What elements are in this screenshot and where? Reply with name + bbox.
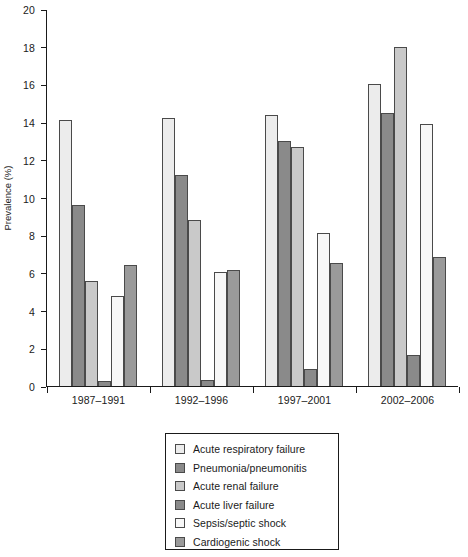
y-tick-mark	[41, 236, 46, 237]
bar	[111, 296, 124, 386]
bar	[85, 281, 98, 386]
bar	[227, 270, 240, 386]
legend-item: Sepsis/septic shock	[175, 514, 338, 532]
legend-label: Sepsis/septic shock	[193, 517, 286, 529]
legend-label: Acute liver failure	[193, 499, 274, 511]
bar	[214, 272, 227, 386]
y-tick-label: 4	[29, 306, 35, 318]
bar	[201, 380, 214, 386]
chart-root: Prevalence (%) 20181614121086420 1987–19…	[0, 0, 468, 557]
x-tick-mark	[253, 387, 254, 393]
y-tick-label: 12	[23, 155, 35, 167]
legend-item: Acute respiratory failure	[175, 440, 338, 458]
bar	[124, 265, 137, 386]
y-tick-mark	[41, 273, 46, 274]
y-tick-mark	[41, 387, 46, 388]
legend-swatch-icon	[175, 518, 185, 528]
x-tick-mark	[459, 387, 460, 393]
x-category-label: 2002–2006	[356, 394, 459, 410]
y-tick-label: 16	[23, 79, 35, 91]
legend-item: Pneumonia/pneumonitis	[175, 459, 338, 477]
y-tick-mark	[41, 160, 46, 161]
bar	[420, 124, 433, 386]
legend-swatch-icon	[175, 481, 185, 491]
y-tick-label: 6	[29, 268, 35, 280]
bar	[175, 175, 188, 386]
x-category-label: 1997–2001	[253, 394, 356, 410]
bar	[59, 120, 72, 386]
bar	[304, 369, 317, 386]
legend-swatch-icon	[175, 537, 185, 547]
legend-label: Cardiogenic shock	[193, 536, 280, 548]
bar	[330, 263, 343, 386]
bar	[368, 84, 381, 386]
y-tick-mark	[41, 10, 46, 11]
legend-item: Acute renal failure	[175, 477, 338, 495]
x-tick-mark	[150, 387, 151, 393]
x-tick-mark	[47, 387, 48, 393]
y-tick-mark	[41, 349, 46, 350]
y-tick-label: 0	[29, 381, 35, 393]
x-axis-line	[46, 386, 458, 387]
y-tick-mark	[41, 47, 46, 48]
x-tick-mark	[356, 387, 357, 393]
bar	[265, 115, 278, 386]
bar-group	[253, 10, 356, 386]
y-tick-mark	[41, 123, 46, 124]
x-category-label: 1987–1991	[47, 394, 150, 410]
y-tick-mark	[41, 198, 46, 199]
y-tick-label: 10	[23, 193, 35, 205]
x-axis-category-labels: 1987–19911992–19961997–20012002–2006	[47, 394, 459, 410]
bar-groups	[47, 10, 458, 386]
y-tick-label: 20	[23, 4, 35, 16]
legend-swatch-icon	[175, 500, 185, 510]
bar-group	[150, 10, 253, 386]
bar	[381, 113, 394, 386]
bar	[407, 355, 420, 386]
bar	[72, 205, 85, 386]
bar	[317, 233, 330, 386]
y-tick-label: 18	[23, 42, 35, 54]
bar	[188, 220, 201, 386]
y-tick-label: 14	[23, 117, 35, 129]
y-tick-label: 2	[29, 343, 35, 355]
bar	[394, 47, 407, 386]
y-tick-label: 8	[29, 230, 35, 242]
x-category-label: 1992–1996	[150, 394, 253, 410]
legend-label: Pneumonia/pneumonitis	[193, 462, 307, 474]
bar-group	[47, 10, 150, 386]
legend-swatch-icon	[175, 463, 185, 473]
bar-group	[355, 10, 458, 386]
y-tick-mark	[41, 311, 46, 312]
bar	[98, 381, 111, 386]
legend-label: Acute renal failure	[193, 480, 279, 492]
chart-legend: Acute respiratory failurePneumonia/pneum…	[165, 433, 339, 550]
bar	[291, 147, 304, 386]
legend-label: Acute respiratory failure	[193, 443, 305, 455]
bar	[278, 141, 291, 386]
y-tick-mark	[41, 85, 46, 86]
legend-item: Cardiogenic shock	[175, 533, 338, 551]
legend-swatch-icon	[175, 444, 185, 454]
legend-item: Acute liver failure	[175, 496, 338, 514]
bar	[433, 257, 446, 386]
bar	[162, 118, 175, 386]
y-axis-title: Prevalence (%)	[2, 166, 13, 231]
plot-area: 20181614121086420	[46, 10, 458, 387]
